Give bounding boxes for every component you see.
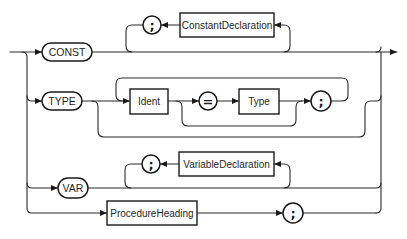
const-loop-right xyxy=(274,25,290,52)
arrow-icon xyxy=(35,49,42,55)
const-separator-label: ; xyxy=(149,18,154,33)
exit-arrow-icon xyxy=(390,49,397,55)
var-main-line xyxy=(88,183,381,188)
arrow-icon xyxy=(160,161,167,167)
var-loop-left xyxy=(125,164,142,188)
const-separator-node: ; xyxy=(143,16,161,34)
variable-declaration-node: VariableDeclaration xyxy=(179,152,274,176)
type-label: Type xyxy=(248,96,270,107)
arrow-icon xyxy=(161,22,168,28)
arrow-icon xyxy=(274,161,281,167)
arrow-icon xyxy=(123,98,130,104)
arrow-icon xyxy=(192,98,199,104)
procedure-semicolon-node: ; xyxy=(283,203,303,223)
type-keyword-node: TYPE xyxy=(42,92,82,110)
arrow-icon xyxy=(100,210,107,216)
var-separator-node: ; xyxy=(142,155,160,173)
procedure-heading-node: ProcedureHeading xyxy=(107,201,197,225)
var-loop-right xyxy=(274,164,290,188)
ident-label: Ident xyxy=(138,96,160,107)
arrow-icon xyxy=(51,185,58,191)
equals-node: = xyxy=(199,92,217,110)
arrow-icon xyxy=(274,22,281,28)
syntax-diagram: CONST ; ConstantDeclaration TYPE Ident =… xyxy=(0,0,407,239)
const-keyword-label: CONST xyxy=(49,46,86,58)
type-keyword-label: TYPE xyxy=(48,95,75,107)
type-node: Type xyxy=(239,89,279,114)
constant-declaration-node: ConstantDeclaration xyxy=(180,13,274,37)
arrow-icon xyxy=(276,210,283,216)
equals-label: = xyxy=(203,94,214,109)
left-rail-type xyxy=(22,52,42,101)
var-separator-label: ; xyxy=(148,157,153,172)
var-keyword-label: VAR xyxy=(63,182,84,194)
arrow-icon xyxy=(304,98,311,104)
const-loop-left xyxy=(126,25,143,52)
arrow-icon xyxy=(35,98,42,104)
right-rail xyxy=(376,52,381,213)
arrow-icon xyxy=(232,98,239,104)
ident-node: Ident xyxy=(130,89,168,114)
var-keyword-node: VAR xyxy=(58,178,88,198)
procedure-semicolon-label: ; xyxy=(290,206,295,221)
const-keyword-node: CONST xyxy=(42,43,92,61)
const-main-line xyxy=(92,47,381,52)
type-semicolon-node: ; xyxy=(311,91,331,111)
procedure-heading-label: ProcedureHeading xyxy=(110,208,193,219)
type-semicolon-label: ; xyxy=(318,94,323,109)
variable-declaration-label: VariableDeclaration xyxy=(183,159,270,170)
constant-declaration-label: ConstantDeclaration xyxy=(182,20,273,31)
